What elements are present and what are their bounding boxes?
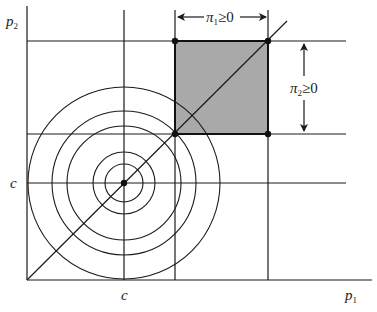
shaded-region xyxy=(175,41,268,134)
pi2-relation: ≥0 xyxy=(302,80,318,96)
pi1-relation: ≥0 xyxy=(218,9,234,25)
dot-bottom-left xyxy=(172,131,178,137)
x-axis-label: p1 xyxy=(344,287,357,305)
dot-bottom-right xyxy=(265,131,271,137)
diagonal-line xyxy=(27,21,287,280)
indifference-diagram: π1≥0 π2≥0 p2 p1 c c xyxy=(0,0,377,312)
pi2-label: π2≥0 xyxy=(290,80,318,98)
pi1-label: π1≥0 xyxy=(206,9,234,27)
x-tick-c: c xyxy=(121,287,128,303)
dot-center xyxy=(121,180,127,186)
x-axis-label-sub: 1 xyxy=(353,295,358,305)
y-axis-label: p2 xyxy=(5,13,18,31)
y-tick-c: c xyxy=(10,175,17,191)
y-axis-label-sub: 2 xyxy=(14,21,19,31)
dot-top-right xyxy=(265,38,271,44)
dot-top-left xyxy=(172,38,178,44)
